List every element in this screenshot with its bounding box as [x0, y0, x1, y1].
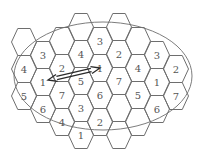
cell-label: 1	[154, 77, 160, 88]
cell-label: 4	[135, 63, 141, 74]
cell-label: 5	[21, 91, 27, 102]
cell-label: 3	[78, 103, 84, 114]
cell-label: 3	[97, 36, 103, 47]
cell-labels: 4531627445313162274531627	[21, 36, 179, 141]
hex-grid	[12, 14, 189, 149]
hex-cell-diagram: 4531627445313162274531627	[0, 0, 203, 154]
cell-label: 2	[173, 64, 179, 75]
cell-label: 7	[59, 90, 65, 101]
cell-label: 5	[135, 90, 141, 101]
cell-label: 6	[40, 104, 46, 115]
cell-label: 4	[21, 64, 27, 75]
cell-label: 4	[59, 117, 65, 128]
cell-label: 5	[78, 76, 84, 87]
cell-label: 2	[116, 49, 122, 60]
cell-label: 7	[173, 91, 179, 102]
hex-cell	[107, 122, 132, 149]
cell-label: 6	[97, 90, 103, 101]
cell-label: 1	[40, 77, 46, 88]
cell-label: 6	[154, 104, 160, 115]
cell-label: 2	[97, 117, 103, 128]
cell-label: 1	[78, 130, 84, 141]
cell-label: 7	[116, 76, 122, 87]
cell-label: 3	[154, 50, 160, 61]
cell-label: 2	[59, 63, 65, 74]
cell-label: 3	[40, 50, 46, 61]
cell-label: 4	[78, 49, 84, 60]
